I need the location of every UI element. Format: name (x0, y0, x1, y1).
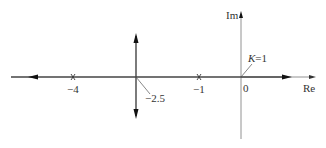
locus-arrow-down-icon (134, 109, 139, 119)
gain-leader (241, 64, 252, 77)
real-axis-arrow-icon (309, 75, 316, 79)
imaginary-axis-arrow-icon (239, 11, 243, 18)
breakaway-label: −2.5 (145, 92, 165, 104)
pole-label-minus-1: −1 (193, 83, 205, 95)
gain-value: =1 (255, 52, 267, 64)
locus-arrow-left-icon (28, 75, 38, 80)
imaginary-axis-label: Im (226, 9, 239, 21)
locus-arrow-right-icon (282, 75, 292, 80)
locus-arrow-up-icon (134, 33, 139, 43)
root-locus-diagram: Im Re −2.5 −4 −1 0 K=1 (0, 0, 326, 148)
real-axis-label: Re (303, 82, 315, 94)
origin-label: 0 (243, 82, 249, 94)
pole-label-minus-4: −4 (67, 83, 79, 95)
gain-annotation: K=1 (247, 52, 267, 64)
